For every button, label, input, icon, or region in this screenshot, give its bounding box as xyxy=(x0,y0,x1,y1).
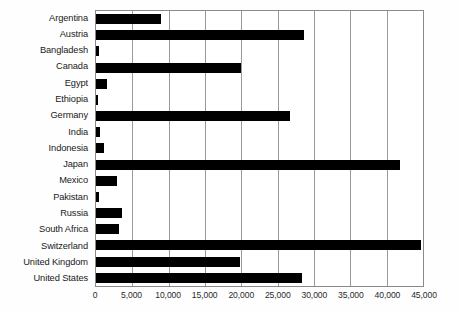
bar-row xyxy=(96,76,423,92)
category-label: Russia xyxy=(0,206,93,222)
category-label: Argentina xyxy=(0,10,93,26)
bar xyxy=(96,111,290,121)
category-label: Mexico xyxy=(0,173,93,189)
bar xyxy=(96,30,304,40)
bar-row xyxy=(96,254,423,270)
bar-row xyxy=(96,157,423,173)
category-label: Egypt xyxy=(0,75,93,91)
bar-row xyxy=(96,237,423,253)
x-tick-label: 45,000 xyxy=(411,290,437,300)
plot-area xyxy=(95,10,424,287)
bar-series xyxy=(96,11,423,286)
category-label: United Kingdom xyxy=(0,254,93,270)
bar xyxy=(96,46,99,56)
category-label: Austria xyxy=(0,26,93,42)
bar xyxy=(96,224,119,234)
bar xyxy=(96,192,99,202)
bar xyxy=(96,273,302,283)
x-tick-label: 0 xyxy=(93,290,98,300)
category-label: Pakistan xyxy=(0,189,93,205)
bar-chart: ArgentinaAustriaBangladeshCanadaEgyptEth… xyxy=(0,0,458,312)
bar xyxy=(96,208,122,218)
category-label: United States xyxy=(0,271,93,287)
category-label: Switzerland xyxy=(0,238,93,254)
x-tick-label: 35,000 xyxy=(338,290,364,300)
x-tick-label: 40,000 xyxy=(375,290,401,300)
category-label: Canada xyxy=(0,59,93,75)
category-label: India xyxy=(0,124,93,140)
bar-row xyxy=(96,205,423,221)
bar xyxy=(96,143,104,153)
bar-row xyxy=(96,124,423,140)
gridline xyxy=(423,11,424,286)
x-tick-label: 15,000 xyxy=(192,290,218,300)
category-label: Germany xyxy=(0,108,93,124)
bar-row xyxy=(96,140,423,156)
bar-row xyxy=(96,221,423,237)
bar-row xyxy=(96,92,423,108)
bar xyxy=(96,127,100,137)
category-label: Ethiopia xyxy=(0,91,93,107)
category-axis-labels: ArgentinaAustriaBangladeshCanadaEgyptEth… xyxy=(0,10,93,287)
x-tick-label: 30,000 xyxy=(301,290,327,300)
bar xyxy=(96,95,98,105)
category-label: Japan xyxy=(0,157,93,173)
bar xyxy=(96,240,421,250)
bar xyxy=(96,160,400,170)
bar xyxy=(96,14,161,24)
bar xyxy=(96,79,107,89)
category-label: Indonesia xyxy=(0,140,93,156)
bar xyxy=(96,176,117,186)
bar-row xyxy=(96,27,423,43)
x-tick-label: 5,000 xyxy=(121,290,142,300)
bar-row xyxy=(96,173,423,189)
category-label: Bangladesh xyxy=(0,43,93,59)
bar-row xyxy=(96,60,423,76)
bar xyxy=(96,63,241,73)
bar-row xyxy=(96,270,423,286)
category-label: South Africa xyxy=(0,222,93,238)
x-tick-label: 20,000 xyxy=(228,290,254,300)
bar-row xyxy=(96,11,423,27)
bar xyxy=(96,257,240,267)
x-tick-label: 25,000 xyxy=(265,290,291,300)
bar-row xyxy=(96,189,423,205)
bar-row xyxy=(96,43,423,59)
value-axis-labels: 05,00010,00015,00020,00025,00030,00035,0… xyxy=(95,290,424,306)
bar-row xyxy=(96,108,423,124)
x-tick-label: 10,000 xyxy=(155,290,181,300)
